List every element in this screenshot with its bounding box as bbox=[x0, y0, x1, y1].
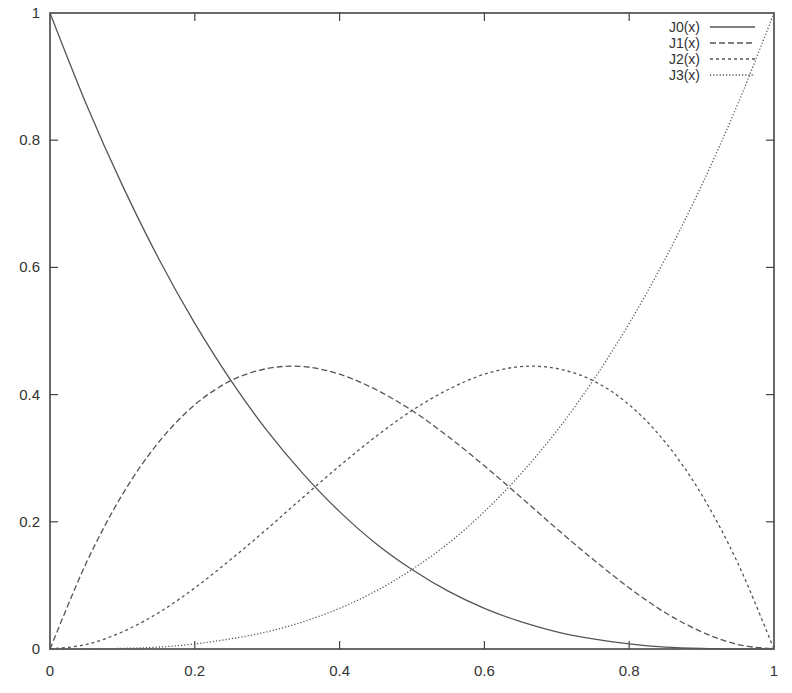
x-tick-label: 0.6 bbox=[474, 662, 495, 679]
legend-label-j1: J1(x) bbox=[669, 35, 700, 51]
x-tick-label: 0.2 bbox=[184, 662, 205, 679]
x-tick-label: 0.8 bbox=[619, 662, 640, 679]
series-group bbox=[50, 13, 774, 649]
legend-label-j3: J3(x) bbox=[669, 67, 700, 83]
y-tick-label: 0.6 bbox=[19, 258, 40, 275]
series-line-j2x bbox=[50, 366, 774, 649]
chart: 00.20.40.60.81 00.20.40.60.81 J0(x) J1(x… bbox=[0, 0, 792, 693]
series-line-j3x bbox=[50, 13, 774, 649]
legend-label-j2: J2(x) bbox=[669, 51, 700, 67]
y-tick-label: 0.8 bbox=[19, 131, 40, 148]
series-line-j1x bbox=[50, 366, 774, 649]
y-tick-label: 0.4 bbox=[19, 386, 40, 403]
y-tick-label: 0 bbox=[32, 640, 40, 657]
plot-border bbox=[50, 13, 774, 649]
x-tick-label: 1 bbox=[770, 662, 778, 679]
y-tick-label: 0.2 bbox=[19, 513, 40, 530]
x-axis: 00.20.40.60.81 bbox=[46, 13, 778, 679]
legend-label-j0: J0(x) bbox=[669, 19, 700, 35]
plot-frame bbox=[50, 13, 774, 649]
x-tick-label: 0 bbox=[46, 662, 54, 679]
y-tick-label: 1 bbox=[32, 4, 40, 21]
series-line-j0x bbox=[50, 13, 774, 649]
x-tick-label: 0.4 bbox=[329, 662, 350, 679]
legend: J0(x) J1(x) J2(x) J3(x) bbox=[669, 19, 755, 83]
